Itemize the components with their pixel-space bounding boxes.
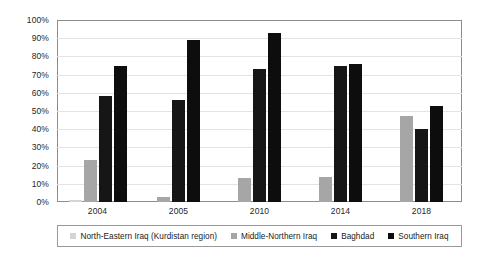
legend-swatch-icon (331, 233, 337, 239)
x-axis-tick-label: 2010 (219, 203, 300, 219)
y-axis-tick-label: 20% (32, 161, 49, 170)
chart-legend: North-Eastern Iraq (Kurdistan region)Mid… (57, 225, 462, 247)
bar-group (219, 20, 300, 202)
x-axis-tick-label: 2005 (138, 203, 219, 219)
y-axis-tick-label: 0% (37, 198, 50, 207)
y-axis-tick-label: 100% (27, 16, 49, 25)
y-axis-tick-label: 90% (32, 34, 49, 43)
legend-item[interactable]: Baghdad (331, 232, 374, 241)
x-axis-tick-label: 2018 (381, 203, 462, 219)
bar (238, 178, 251, 202)
bar-group (57, 20, 138, 202)
bar (415, 129, 428, 202)
bar (334, 66, 347, 203)
bar-group (381, 20, 462, 202)
bar-group (300, 20, 381, 202)
bar (349, 64, 362, 202)
y-axis-tick-label: 60% (32, 88, 49, 97)
legend-label: Southern Iraq (398, 232, 448, 241)
legend-item[interactable]: Middle-Northern Iraq (231, 232, 317, 241)
bar (319, 177, 332, 202)
y-axis-tick-label: 50% (32, 107, 49, 116)
bar (172, 100, 185, 202)
y-axis: 0%10%20%30%40%50%60%70%80%90%100% (0, 20, 53, 202)
y-axis-tick-label: 80% (32, 52, 49, 61)
bar-chart: 0%10%20%30%40%50%60%70%80%90%100% 200420… (0, 0, 478, 260)
bar (187, 40, 200, 202)
legend-item[interactable]: Southern Iraq (388, 232, 448, 241)
legend-label: Middle-Northern Iraq (241, 232, 317, 241)
bar (253, 69, 266, 202)
legend-swatch-icon (70, 233, 76, 239)
legend-label: Baghdad (341, 232, 374, 241)
bar (157, 197, 170, 202)
x-axis-tick-label: 2004 (57, 203, 138, 219)
bar (430, 106, 443, 202)
y-axis-tick-label: 30% (32, 143, 49, 152)
y-axis-tick-label: 40% (32, 125, 49, 134)
bar-groups (57, 20, 462, 202)
legend-swatch-icon (388, 233, 394, 239)
legend-swatch-icon (231, 233, 237, 239)
bar (84, 160, 97, 202)
y-axis-tick-label: 70% (32, 70, 49, 79)
bar (400, 116, 413, 202)
bar (268, 33, 281, 202)
bar (69, 200, 82, 202)
y-axis-tick-label: 10% (32, 179, 49, 188)
x-axis-tick-label: 2014 (300, 203, 381, 219)
bar-group (138, 20, 219, 202)
legend-item[interactable]: North-Eastern Iraq (Kurdistan region) (70, 232, 217, 241)
bar (114, 66, 127, 203)
x-axis: 20042005201020142018 (57, 203, 462, 219)
bar (99, 96, 112, 202)
legend-label: North-Eastern Iraq (Kurdistan region) (80, 232, 217, 241)
